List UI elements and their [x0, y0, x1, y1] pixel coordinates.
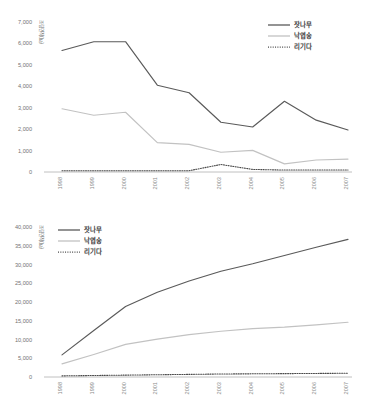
y-tick-label: 7,000 [18, 19, 32, 25]
legend-label: 낙엽송 [84, 236, 102, 245]
y-tick-label: 3,000 [18, 105, 32, 111]
y-tick-label: 4,000 [18, 83, 32, 89]
series-line [62, 322, 348, 364]
x-tick-label: 2006 [311, 382, 317, 394]
x-axis-ticks: 1998199920002001200220032004200520062007 [57, 177, 349, 189]
y-tick-label: 1,000 [18, 148, 32, 154]
x-tick-label: 2002 [184, 382, 190, 394]
x-tick-label: 2001 [152, 177, 158, 189]
x-tick-label: 2003 [216, 177, 222, 189]
x-tick-label: 1998 [57, 177, 63, 189]
x-tick-label: 1999 [89, 177, 95, 189]
series-line [62, 239, 348, 355]
series-group [62, 239, 348, 376]
x-tick-label: 2004 [248, 382, 254, 394]
y-tick-label: 5,000 [18, 355, 32, 361]
legend-label: 리기다 [84, 247, 102, 256]
x-tick-label: 2007 [343, 382, 349, 394]
series-line [62, 373, 348, 376]
y-tick-label: 5,000 [18, 62, 32, 68]
y-tick-label: 40,000 [15, 224, 32, 230]
chart-page: 01,0002,0003,0004,0005,0006,0007,000조림면적… [0, 0, 366, 411]
chart-canvas: 01,0002,0003,0004,0005,0006,0007,000조림면적… [0, 0, 366, 205]
legend-label: 리기다 [294, 42, 312, 51]
y-tick-label: 6,000 [18, 40, 32, 46]
x-tick-label: 2000 [121, 177, 127, 189]
y-tick-label: 30,000 [15, 262, 32, 268]
y-axis-title: 조림면적(㏊) [38, 225, 45, 250]
x-tick-label: 2005 [279, 382, 285, 394]
y-axis-ticks: 05,00010,00015,00020,00025,00030,00035,0… [15, 224, 32, 380]
x-tick-label: 2001 [152, 382, 158, 394]
chart-cumulative-afforestation: 05,00010,00015,00020,00025,00030,00035,0… [0, 205, 366, 411]
x-tick-label: 2006 [311, 177, 317, 189]
x-tick-label: 2002 [184, 177, 190, 189]
legend-label: 낙엽송 [294, 31, 312, 40]
chart-canvas: 05,00010,00015,00020,00025,00030,00035,0… [0, 205, 366, 411]
y-tick-label: 20,000 [15, 299, 32, 305]
y-tick-label: 25,000 [15, 280, 32, 286]
y-tick-label: 10,000 [15, 337, 32, 343]
legend: 잣나무낙엽송리기다 [268, 20, 312, 51]
y-tick-label: 0 [29, 169, 32, 175]
x-tick-label: 2007 [343, 177, 349, 189]
series-line [62, 109, 348, 164]
legend: 잣나무낙엽송리기다 [58, 225, 102, 256]
x-tick-label: 1998 [57, 382, 63, 394]
x-tick-label: 2003 [216, 382, 222, 394]
legend-label: 잣나무 [294, 20, 312, 29]
series-line [62, 42, 348, 130]
y-tick-label: 2,000 [18, 126, 32, 132]
series-group [62, 42, 348, 171]
y-tick-label: 35,000 [15, 243, 32, 249]
y-tick-label: 0 [29, 374, 32, 380]
y-axis-title: 조림면적(㏊) [38, 20, 45, 45]
legend-label: 잣나무 [84, 225, 102, 234]
x-tick-label: 1999 [89, 382, 95, 394]
x-axis-ticks: 1998199920002001200220032004200520062007 [57, 382, 349, 394]
y-tick-label: 15,000 [15, 318, 32, 324]
x-tick-label: 2000 [121, 382, 127, 394]
x-tick-label: 2005 [279, 177, 285, 189]
y-axis-ticks: 01,0002,0003,0004,0005,0006,0007,000 [18, 19, 32, 175]
chart-annual-afforestation: 01,0002,0003,0004,0005,0006,0007,000조림면적… [0, 0, 366, 205]
x-tick-label: 2004 [248, 177, 254, 189]
series-line [62, 165, 348, 171]
